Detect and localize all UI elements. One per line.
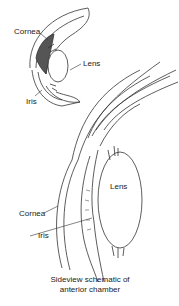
main-lens-label: Lens: [110, 183, 127, 191]
main-illustration: [57, 62, 178, 282]
inset-cornea-label: Cornea: [14, 28, 40, 36]
figure-caption: Sideview schematic of anterior chamber: [20, 275, 160, 295]
main-cornea-leader: [44, 206, 58, 213]
main-iris-label: Iris: [38, 232, 49, 240]
caption-line-1: Sideview schematic of: [20, 275, 160, 285]
inset-lens-leader: [70, 64, 81, 70]
caption-line-2: anterior chamber: [20, 285, 160, 295]
eye-diagram-art: [0, 0, 179, 306]
inset-lens-label: Lens: [83, 60, 100, 68]
inset-illustration: [30, 8, 89, 106]
inset-iris-label: Iris: [26, 98, 37, 106]
inset-cornea-leader: [40, 33, 48, 40]
main-cornea-label: Cornea: [19, 210, 45, 218]
